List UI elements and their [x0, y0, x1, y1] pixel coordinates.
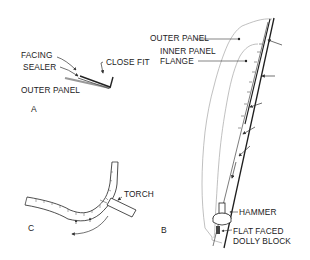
panel-a-drawing: [57, 57, 113, 89]
label-facing: FACING: [21, 51, 53, 60]
hem-flange-repair-diagram: FACING SEALER CLOSE FIT OUTER PANEL A OU…: [0, 0, 310, 260]
label-close-fit: CLOSE FIT: [106, 58, 150, 67]
label-outer-panel-a: OUTER PANEL: [21, 86, 80, 95]
label-outer-panel-b: OUTER PANEL: [150, 34, 209, 43]
label-flat-faced: FLAT FACED: [233, 227, 284, 236]
panel-c-drawing: [25, 162, 136, 234]
figure-label-b: B: [161, 226, 167, 235]
label-inner-panel: INNER PANEL: [160, 47, 216, 56]
label-hammer: HAMMER: [239, 208, 276, 217]
figure-label-a: A: [31, 105, 37, 114]
label-dolly-block: DOLLY BLOCK: [233, 237, 291, 246]
label-flange: FLANGE: [160, 57, 194, 66]
label-sealer: SEALER: [23, 63, 56, 72]
label-torch: TORCH: [124, 190, 154, 199]
figure-label-c: C: [28, 224, 34, 233]
